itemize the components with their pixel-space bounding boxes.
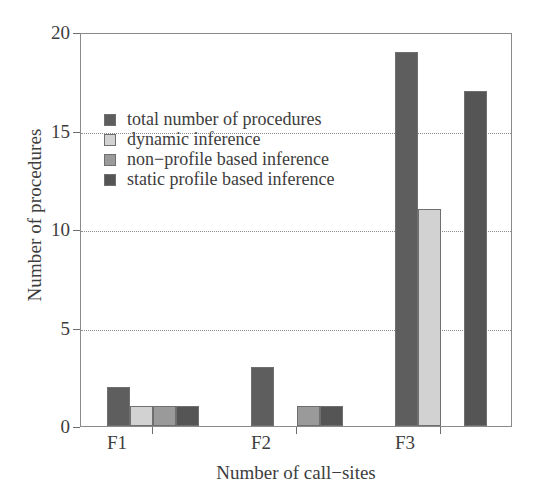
- legend-item: non−profile based inference: [104, 150, 334, 169]
- x-axis-tick-mark: [152, 427, 153, 434]
- bar: [418, 209, 441, 426]
- x-axis-tick-mark: [440, 427, 441, 434]
- bar: [297, 406, 320, 426]
- x-axis-tick-mark: [296, 427, 297, 434]
- legend-swatch-icon: [104, 134, 116, 146]
- bar: [153, 406, 176, 426]
- legend-label: static profile based inference: [127, 170, 334, 189]
- legend-item: dynamic inference: [104, 130, 334, 149]
- bar: [395, 52, 418, 426]
- y-axis-tick-label: 15: [12, 121, 70, 143]
- chart-legend: total number of proceduresdynamic infere…: [104, 110, 334, 189]
- bar: [107, 387, 130, 426]
- y-axis-tick-mark: [73, 33, 80, 34]
- y-axis-tick-mark: [73, 132, 80, 133]
- y-axis-tick-label: 0: [12, 416, 70, 438]
- legend-swatch-icon: [104, 154, 116, 166]
- legend-label: dynamic inference: [127, 130, 260, 149]
- legend-swatch-icon: [104, 174, 116, 186]
- x-axis-tick-label: F2: [226, 432, 296, 454]
- bar: [130, 406, 153, 426]
- plot-area: [80, 33, 512, 427]
- bar: [251, 367, 274, 426]
- x-axis-tick-label: F3: [370, 432, 440, 454]
- x-axis-title: Number of call−sites: [80, 462, 512, 484]
- bar: [320, 406, 343, 426]
- legend-swatch-icon: [104, 114, 116, 126]
- gridline: [81, 231, 511, 232]
- y-axis-tick-mark: [73, 427, 80, 428]
- x-axis-tick-label: F1: [82, 432, 152, 454]
- legend-item: total number of procedures: [104, 110, 334, 129]
- gridline: [81, 330, 511, 331]
- y-axis-title: Number of procedures: [18, 0, 52, 430]
- bar: [464, 91, 487, 426]
- legend-item: static profile based inference: [104, 170, 334, 189]
- y-axis-tick-label: 10: [12, 219, 70, 241]
- bar: [176, 406, 199, 426]
- y-axis-tick-label: 20: [12, 22, 70, 44]
- y-axis-tick-mark: [73, 230, 80, 231]
- y-axis-tick-label: 5: [12, 318, 70, 340]
- legend-label: total number of procedures: [127, 110, 321, 129]
- bar-chart-figure: Number of procedures 05101520 F1F2F3 Num…: [0, 0, 537, 497]
- y-axis-tick-mark: [73, 329, 80, 330]
- legend-label: non−profile based inference: [127, 150, 329, 169]
